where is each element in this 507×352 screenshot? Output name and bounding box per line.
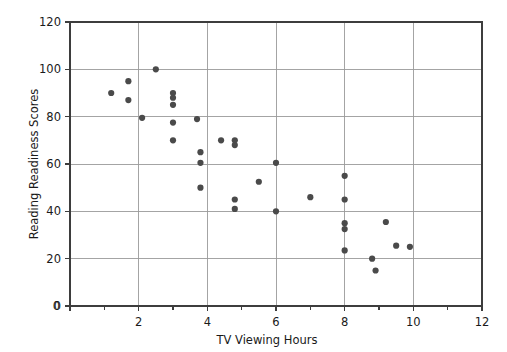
data-point	[232, 196, 238, 202]
data-point	[372, 267, 378, 273]
data-point	[170, 95, 176, 101]
y-tick-label: 120	[39, 15, 61, 29]
data-point	[393, 243, 399, 249]
x-axis-tick-labels: 024681012	[53, 299, 490, 329]
data-point	[232, 206, 238, 212]
x-axis-title: TV Viewing Hours	[216, 333, 318, 347]
data-point	[342, 220, 348, 226]
x-tick-label: 0	[53, 299, 60, 313]
y-axis-tick-labels: 020406080100120	[39, 15, 61, 313]
x-tick-label: 2	[135, 315, 142, 329]
x-tick-label: 12	[475, 315, 490, 329]
x-tick-label: 10	[406, 315, 421, 329]
y-tick-label: 100	[39, 62, 61, 76]
y-tick-label: 80	[46, 110, 61, 124]
data-point	[273, 208, 279, 214]
data-point	[170, 137, 176, 143]
data-point	[407, 244, 413, 250]
data-point	[256, 179, 262, 185]
y-tick-label: 60	[46, 157, 61, 171]
data-point	[218, 137, 224, 143]
data-point	[273, 160, 279, 166]
data-point	[170, 102, 176, 108]
x-tick-label: 4	[204, 315, 211, 329]
data-point	[342, 173, 348, 179]
data-point	[197, 149, 203, 155]
data-point	[125, 97, 131, 103]
data-point	[139, 115, 145, 121]
data-point	[342, 196, 348, 202]
y-axis-title: Reading Readiness Scores	[27, 89, 41, 240]
data-point	[170, 119, 176, 125]
data-point	[369, 256, 375, 262]
scatter-plot-canvas: 020406080100120 024681012 Reading Readin…	[0, 0, 507, 352]
data-point	[342, 226, 348, 232]
axis-ticks	[65, 22, 482, 311]
data-point	[194, 116, 200, 122]
data-point	[153, 66, 159, 72]
data-points	[108, 66, 413, 273]
x-tick-label: 8	[341, 315, 348, 329]
x-tick-label: 6	[272, 315, 279, 329]
data-point	[232, 142, 238, 148]
y-tick-label: 20	[46, 252, 61, 266]
y-tick-label: 40	[46, 204, 61, 218]
data-point	[108, 90, 114, 96]
data-point	[197, 160, 203, 166]
data-point	[342, 247, 348, 253]
data-point	[307, 194, 313, 200]
data-point	[197, 185, 203, 191]
data-point	[125, 78, 131, 84]
data-point	[383, 219, 389, 225]
scatter-chart: 020406080100120 024681012 Reading Readin…	[0, 0, 507, 352]
